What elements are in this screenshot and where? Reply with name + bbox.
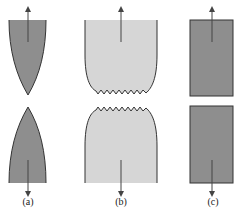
panel-c-label: (c) <box>207 196 218 207</box>
panel-b-label: (b) <box>115 196 127 207</box>
panel-b <box>85 9 157 194</box>
fracture-diagram <box>0 0 238 211</box>
panel-a <box>9 9 46 194</box>
panel-a-label: (a) <box>22 196 33 207</box>
panel-c <box>190 9 233 194</box>
